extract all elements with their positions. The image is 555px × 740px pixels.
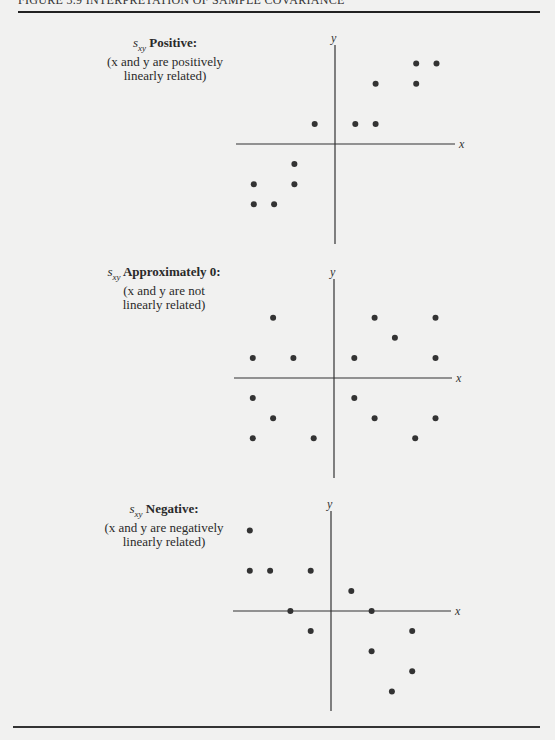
data-point — [369, 648, 375, 654]
scatter-plot-zero: x y — [234, 265, 462, 478]
data-point — [251, 201, 257, 207]
data-point — [250, 395, 256, 401]
data-point — [373, 121, 379, 127]
x-axis-label: x — [455, 371, 462, 385]
y-axis-label: y — [326, 497, 333, 511]
data-point — [409, 628, 415, 634]
data-point — [433, 415, 439, 421]
data-point — [373, 81, 379, 87]
data-point — [250, 435, 256, 441]
scatter-plot-negative: x y — [233, 497, 461, 711]
data-point — [389, 688, 395, 694]
data-point — [311, 435, 317, 441]
bottom-rule — [13, 726, 540, 728]
data-point — [247, 528, 253, 534]
x-axis-label: x — [454, 604, 461, 618]
data-point — [247, 568, 253, 574]
data-point — [312, 121, 318, 127]
data-point — [270, 315, 276, 321]
data-point — [267, 568, 273, 574]
data-point — [351, 395, 357, 401]
data-point — [308, 568, 314, 574]
data-point — [251, 181, 257, 187]
scatter-plots: x y x y x y — [0, 0, 555, 740]
data-point — [413, 61, 419, 67]
data-point — [287, 608, 293, 614]
data-point — [291, 161, 297, 167]
data-point — [409, 668, 415, 674]
data-point — [348, 588, 354, 594]
data-point — [413, 81, 419, 87]
data-point — [308, 628, 314, 634]
x-axis-label: x — [458, 137, 465, 151]
data-point — [433, 315, 439, 321]
data-point — [351, 355, 357, 361]
data-point — [434, 61, 440, 67]
data-point — [392, 335, 398, 341]
data-point — [270, 415, 276, 421]
data-point — [369, 608, 375, 614]
data-point — [412, 435, 418, 441]
data-points — [251, 61, 440, 208]
y-axis-label: y — [329, 265, 336, 279]
data-point — [290, 355, 296, 361]
y-axis-label: y — [330, 31, 337, 45]
data-point — [271, 201, 277, 207]
data-point — [372, 415, 378, 421]
data-point — [372, 315, 378, 321]
data-point — [352, 121, 358, 127]
data-point — [433, 355, 439, 361]
scatter-plot-positive: x y — [236, 31, 465, 244]
data-point — [291, 181, 297, 187]
data-point — [250, 355, 256, 361]
